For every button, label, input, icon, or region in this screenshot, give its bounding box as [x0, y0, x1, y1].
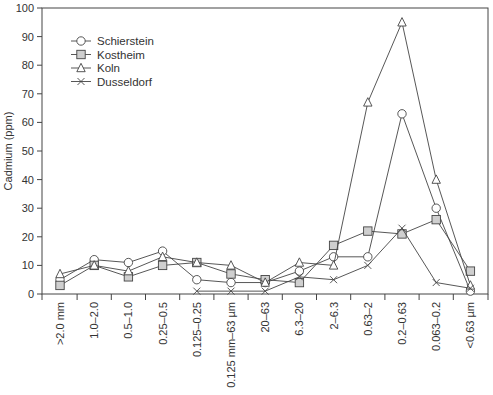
x-tick-label: 0.5–1.0 [122, 302, 134, 339]
y-tick-label: 80 [22, 59, 34, 71]
y-axis-title: Cadmium (ppm) [2, 112, 14, 191]
data-point-dusseldorf [364, 262, 371, 269]
legend-item-koln: Koln [71, 62, 120, 74]
y-tick-label: 70 [22, 88, 34, 100]
y-tick-label: 30 [22, 202, 34, 214]
axes: 0102030405060708090100>2.0 mm1.0–2.00.5–… [16, 2, 488, 388]
x-tick-label: 2–6.3 [328, 302, 340, 330]
x-tick-label: <0.63 µm [464, 302, 476, 348]
y-tick-label: 100 [16, 2, 34, 14]
data-point-kostheim [227, 270, 235, 278]
legend-label: Kostheim [97, 49, 145, 61]
y-tick-label: 10 [22, 259, 34, 271]
data-point-schierstein [432, 204, 440, 212]
legend: SchiersteinKostheimKolnDusseldorf [71, 35, 154, 88]
data-point-koln [398, 18, 406, 26]
x-tick-label: 0.63–2 [362, 302, 374, 336]
data-point-schierstein [398, 110, 406, 118]
y-tick-label: 20 [22, 231, 34, 243]
cadmium-line-chart: 0102030405060708090100>2.0 mm1.0–2.00.5–… [0, 0, 493, 395]
x-tick-label: 0.2–0.63 [396, 302, 408, 345]
legend-label: Koln [97, 62, 120, 74]
data-point-kostheim [56, 281, 64, 289]
legend-item-schierstein: Schierstein [71, 35, 154, 47]
x-tick-label: 0.25–0.5 [157, 302, 169, 345]
data-point-kostheim [466, 267, 474, 275]
data-point-schierstein [364, 253, 372, 261]
data-point-kostheim [364, 227, 372, 235]
data-point-kostheim [432, 215, 440, 223]
series-line-koln [60, 22, 470, 285]
x-tick-label: 0.063–0.2 [430, 302, 442, 351]
data-point-schierstein [227, 278, 235, 286]
y-tick-label: 40 [22, 174, 34, 186]
y-tick-label: 90 [22, 31, 34, 43]
legend-item-dusseldorf: Dusseldorf [71, 76, 153, 88]
x-tick-label: 1.0–2.0 [88, 302, 100, 339]
legend-item-kostheim: Kostheim [71, 49, 145, 61]
data-point-kostheim [329, 241, 337, 249]
data-point-kostheim [158, 261, 166, 269]
x-tick-label: 20–63 [259, 302, 271, 333]
legend-marker-square-icon [77, 50, 85, 58]
data-point-koln [295, 258, 303, 266]
legend-marker-circle-icon [77, 37, 85, 45]
x-tick-label: 0.125–0.25 [191, 302, 203, 357]
x-tick-label: >2.0 mm [54, 302, 66, 345]
data-point-koln [364, 98, 372, 106]
series-line-schierstein [60, 114, 470, 291]
y-tick-label: 60 [22, 116, 34, 128]
series-schierstein [56, 110, 475, 296]
y-tick-label: 0 [28, 288, 34, 300]
y-tick-label: 50 [22, 145, 34, 157]
legend-marker-triangle-icon [77, 63, 85, 71]
data-point-schierstein [193, 276, 201, 284]
x-tick-label: 0.125 mm–63 µm [225, 302, 237, 388]
data-point-koln [432, 175, 440, 183]
legend-label: Schierstein [97, 35, 154, 47]
legend-label: Dusseldorf [97, 76, 153, 88]
x-tick-label: 6.3–20 [293, 302, 305, 336]
